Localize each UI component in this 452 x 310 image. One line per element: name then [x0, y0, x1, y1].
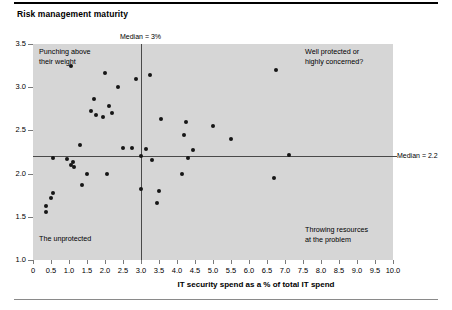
x-axis-tick-label: 4.0	[172, 266, 182, 275]
y-axis-labels: 1.01.52.02.53.03.5	[0, 0, 26, 310]
quadrant-br-line1: Throwing resources	[305, 225, 368, 235]
x-axis-tick	[87, 260, 88, 264]
x-axis-tick-label: 0	[31, 266, 35, 275]
scatter-point	[78, 143, 82, 147]
x-axis-tick	[285, 260, 286, 264]
chart-figure: Risk management maturity 1.01.52.02.53.0…	[0, 0, 452, 310]
scatter-point	[116, 85, 120, 89]
x-axis-tick-label: 8.0	[316, 266, 326, 275]
x-axis-tick-label: 7.5	[298, 266, 308, 275]
x-axis-tick	[321, 260, 322, 264]
y-axis-tick	[28, 44, 33, 45]
y-axis-tick	[28, 87, 33, 88]
quadrant-label-top-right: Well protected or highly concerned?	[305, 47, 363, 67]
x-axis-tick-label: 2.5	[118, 266, 128, 275]
median-y-label: Median = 2.2	[397, 152, 438, 159]
quadrant-tl-line1: Punching above	[39, 47, 91, 57]
x-axis-tick	[231, 260, 232, 264]
y-axis-tick-label: 3.5	[16, 39, 26, 48]
x-axis-tick-label: 3.0	[136, 266, 146, 275]
scatter-point	[229, 137, 233, 141]
y-axis-tick-label: 1.5	[16, 212, 26, 221]
scatter-point	[103, 71, 107, 75]
x-axis-tick	[159, 260, 160, 264]
bottom-rule	[14, 299, 438, 300]
quadrant-tl-line2: their weight	[39, 57, 91, 67]
x-axis-tick-label: 6.0	[244, 266, 254, 275]
y-axis-tick-label: 3.0	[16, 82, 26, 91]
scatter-point	[51, 191, 55, 195]
x-axis-tick-label: 1.0	[64, 266, 74, 275]
x-axis-tick	[141, 260, 142, 264]
scatter-point	[274, 68, 278, 72]
x-axis-tick	[105, 260, 106, 264]
y-axis-tick	[28, 174, 33, 175]
median-x-label: Median = 3%	[120, 33, 161, 40]
y-axis-line	[32, 44, 33, 260]
page-title: Risk management maturity	[17, 9, 128, 19]
x-axis-tick-label: 0.5	[46, 266, 56, 275]
x-axis-tick	[195, 260, 196, 264]
x-axis-tick-label: 1.5	[82, 266, 92, 275]
x-axis-tick	[357, 260, 358, 264]
median-line-horizontal	[33, 156, 393, 157]
y-axis-tick-label: 2.5	[16, 125, 26, 134]
x-axis-tick	[375, 260, 376, 264]
x-axis-tick-label: 6.5	[262, 266, 272, 275]
scatter-point	[130, 146, 134, 150]
quadrant-tr-line1: Well protected or	[305, 47, 363, 57]
scatter-point	[105, 172, 109, 176]
x-axis-tick	[339, 260, 340, 264]
x-axis-tick-label: 8.5	[334, 266, 344, 275]
scatter-point	[159, 117, 163, 121]
median-line-horizontal-extension	[393, 156, 397, 157]
x-axis-tick	[267, 260, 268, 264]
scatter-point	[121, 146, 125, 150]
x-axis-tick	[249, 260, 250, 264]
scatter-point	[186, 156, 190, 160]
quadrant-label-bottom-right: Throwing resources at the problem	[305, 225, 368, 245]
quadrant-br-line2: at the problem	[305, 235, 368, 245]
scatter-point	[85, 172, 89, 176]
y-axis-tick	[28, 217, 33, 218]
scatter-point	[184, 120, 188, 124]
scatter-point	[157, 189, 161, 193]
scatter-point	[287, 153, 291, 157]
quadrant-label-bottom-left: The unprotected	[39, 234, 91, 244]
y-axis-tick-label: 2.0	[16, 169, 26, 178]
x-axis-tick	[69, 260, 70, 264]
median-line-vertical	[141, 44, 142, 260]
scatter-point	[51, 156, 55, 160]
scatter-point	[94, 113, 98, 117]
x-axis-tick	[213, 260, 214, 264]
x-axis-tick-label: 9.5	[370, 266, 380, 275]
quadrant-bl-line1: The unprotected	[39, 234, 91, 244]
x-axis-tick	[177, 260, 178, 264]
x-axis-tick-label: 2.0	[100, 266, 110, 275]
x-axis-tick-label: 3.5	[154, 266, 164, 275]
x-axis-tick	[123, 260, 124, 264]
x-axis-tick-label: 10.0	[386, 266, 401, 275]
scatter-point	[49, 196, 53, 200]
scatter-point	[44, 204, 48, 208]
scatter-point	[107, 104, 111, 108]
x-axis-tick-label: 7.0	[280, 266, 290, 275]
scatter-point	[150, 158, 154, 162]
x-axis-title: IT security spend as a % of total IT spe…	[0, 280, 452, 289]
x-axis-tick	[33, 260, 34, 264]
x-axis-tick	[51, 260, 52, 264]
x-axis-tick-label: 4.5	[190, 266, 200, 275]
scatter-point	[182, 133, 186, 137]
quadrant-label-top-left: Punching above their weight	[39, 47, 91, 67]
scatter-point	[44, 210, 48, 214]
x-axis-tick-label: 5.0	[208, 266, 218, 275]
top-rule	[14, 2, 438, 4]
y-axis-tick	[28, 130, 33, 131]
y-axis-tick-label: 1.0	[16, 255, 26, 264]
scatter-point	[80, 183, 84, 187]
scatter-point	[134, 77, 138, 81]
x-axis-tick-label: 9.0	[352, 266, 362, 275]
x-axis-tick	[303, 260, 304, 264]
quadrant-tr-line2: highly concerned?	[305, 57, 363, 67]
x-axis-tick-label: 5.5	[226, 266, 236, 275]
